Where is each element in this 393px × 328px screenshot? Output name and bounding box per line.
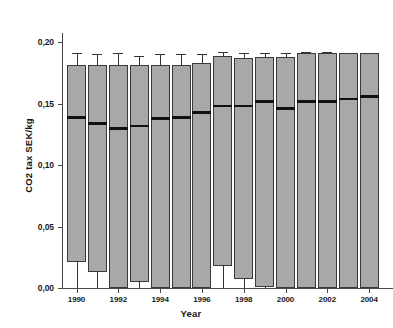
lower-whisker-line	[139, 282, 140, 288]
y-tick-mark	[58, 288, 62, 289]
box-plot-box	[172, 65, 191, 288]
upper-whisker-line	[77, 53, 78, 65]
box-plot-box	[151, 65, 170, 288]
y-tick-label: 0,00	[20, 283, 54, 293]
box-plot-box	[297, 53, 316, 288]
box-plot-box	[213, 56, 232, 266]
median-line	[213, 105, 232, 108]
y-tick-mark	[58, 104, 62, 105]
upper-whisker-cap	[72, 53, 82, 54]
y-tick-label: 0,10	[20, 160, 54, 170]
x-tick-mark	[202, 289, 203, 293]
box-plot-box	[88, 65, 107, 272]
upper-whisker-cap	[260, 53, 270, 54]
x-tick-label: 1990	[56, 295, 98, 304]
median-line	[67, 116, 86, 119]
x-tick-label: 1998	[223, 295, 265, 304]
median-line	[360, 95, 379, 98]
x-tick-label: 2004	[348, 295, 390, 304]
x-tick-mark	[118, 289, 119, 293]
upper-whisker-cap	[197, 54, 207, 55]
median-line	[130, 125, 149, 128]
y-axis-line	[62, 33, 63, 289]
lower-whisker-line	[244, 279, 245, 288]
x-axis-label: Year	[0, 308, 382, 319]
median-line	[255, 100, 274, 103]
y-axis-label: CO2 tax SEK/kg	[23, 66, 34, 246]
box-plot-box	[234, 58, 253, 279]
x-tick-label: 2002	[306, 295, 348, 304]
median-line	[88, 122, 107, 125]
box-plot-box	[109, 65, 128, 288]
x-tick-mark	[327, 289, 328, 293]
median-line	[318, 100, 337, 103]
upper-whisker-cap	[113, 53, 123, 54]
upper-whisker-line	[160, 54, 161, 65]
y-tick-mark	[58, 165, 62, 166]
upper-whisker-line	[202, 54, 203, 63]
upper-whisker-cap	[92, 54, 102, 55]
upper-whisker-cap	[176, 54, 186, 55]
median-line	[109, 127, 128, 130]
box-plot-box	[318, 53, 337, 288]
y-tick-mark	[58, 42, 62, 43]
box-plot-box	[276, 57, 295, 288]
x-tick-label: 1992	[97, 295, 139, 304]
y-tick-label: 0,20	[20, 37, 54, 47]
y-tick-label: 0,15	[20, 99, 54, 109]
lower-whisker-line	[77, 262, 78, 288]
median-line	[276, 107, 295, 110]
box-plot-box	[339, 53, 358, 288]
box-plot-box	[255, 57, 274, 287]
upper-whisker-cap	[218, 52, 228, 53]
y-tick-label: 0,05	[20, 222, 54, 232]
y-tick-mark	[58, 227, 62, 228]
box-plot-box	[360, 53, 379, 288]
x-tick-mark	[369, 289, 370, 293]
lower-whisker-line	[265, 287, 266, 288]
box-plot-box	[67, 65, 86, 262]
upper-whisker-cap	[134, 56, 144, 57]
lower-whisker-line	[223, 266, 224, 288]
x-tick-mark	[244, 289, 245, 293]
upper-whisker-cap	[281, 53, 291, 54]
upper-whisker-line	[181, 54, 182, 65]
median-line	[172, 116, 191, 119]
x-tick-label: 2000	[265, 295, 307, 304]
box-plot-box	[130, 65, 149, 281]
median-line	[192, 111, 211, 114]
x-axis-line	[62, 288, 393, 289]
upper-whisker-line	[139, 56, 140, 66]
box-plot-box	[192, 63, 211, 288]
x-tick-mark	[77, 289, 78, 293]
upper-whisker-cap	[155, 54, 165, 55]
median-line	[234, 105, 253, 108]
upper-whisker-line	[118, 53, 119, 65]
x-tick-label: 1994	[139, 295, 181, 304]
median-line	[151, 117, 170, 120]
lower-whisker-line	[97, 272, 98, 288]
median-line	[297, 100, 316, 103]
x-tick-mark	[286, 289, 287, 293]
upper-whisker-cap	[239, 53, 249, 54]
x-tick-label: 1996	[181, 295, 223, 304]
x-tick-mark	[160, 289, 161, 293]
median-line	[339, 98, 358, 101]
upper-whisker-line	[97, 54, 98, 65]
